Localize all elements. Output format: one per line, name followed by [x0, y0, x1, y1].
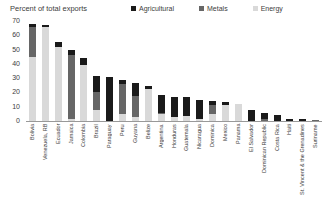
bar-column — [90, 21, 103, 121]
bar-suriname — [312, 120, 319, 121]
legend-swatch-metals — [199, 6, 204, 11]
bar-segment-agricultural — [106, 77, 113, 121]
y-axis-tick-label: 0 — [16, 117, 20, 125]
x-axis-label: Guatemala — [183, 124, 190, 208]
bar-belize — [145, 86, 152, 121]
x-axis-label: Argentina — [158, 124, 165, 208]
bar-column — [103, 21, 116, 121]
y-axis-tick-label: 40 — [12, 60, 20, 68]
bar-el-salvador — [248, 110, 255, 121]
x-axis-label-column: Paraguay — [103, 124, 116, 210]
x-axis-label-column: St. Vincent & the Grenadines — [296, 124, 309, 210]
bar-column — [309, 21, 322, 121]
bar-segment-energy — [55, 47, 62, 121]
bar-guatemala — [183, 97, 190, 121]
bar-column — [232, 21, 245, 121]
x-axis-label-column: Haiti — [284, 124, 297, 210]
bar-column — [129, 21, 142, 121]
bar-segment-energy — [68, 119, 75, 121]
chart-title: Percent of total exports — [10, 4, 87, 13]
legend-label: Agricultural — [139, 5, 174, 12]
bar-column — [168, 21, 181, 121]
x-axis-label-column: Bolivia — [26, 124, 39, 210]
bar-segment-energy — [222, 105, 229, 121]
bar-colombia — [80, 58, 87, 121]
bar-segment-metals — [119, 84, 126, 114]
bar-venezuela-rb — [42, 25, 49, 121]
bar-segment-agricultural — [80, 58, 87, 65]
bar-dominican-republic — [261, 113, 268, 121]
bar-segment-metals — [261, 119, 268, 121]
x-axis-label: Haiti — [286, 124, 293, 208]
y-axis-tick-label: 20 — [12, 88, 20, 96]
bar-segment-energy — [171, 117, 178, 121]
x-axis-label: Dominica — [209, 124, 216, 208]
bar-segment-energy — [119, 114, 126, 121]
y-axis-tick-label: 60 — [12, 31, 20, 39]
x-axis-label: Jamaica — [68, 124, 75, 208]
bar-segment-energy — [196, 119, 203, 121]
x-axis-label: Belize — [145, 124, 152, 208]
x-axis-label-column: Mexico — [219, 124, 232, 210]
x-axis-label: St. Vincent & the Grenadines — [299, 124, 306, 208]
x-axis-label: Nicaragua — [196, 124, 203, 208]
bar-segment-agricultural — [196, 100, 203, 119]
bar-peru — [119, 80, 126, 121]
x-axis-label-column: Dominican Republic — [258, 124, 271, 210]
bar-paraguay — [106, 77, 113, 121]
x-axis-labels: BoliviaVenezuela, RBEcuadorJamaicaColomb… — [26, 124, 322, 210]
x-axis-label-column: Nicaragua — [193, 124, 206, 210]
legend-item-energy: Energy — [253, 5, 283, 12]
bar-column — [52, 21, 65, 121]
bar-bolivia — [29, 24, 36, 121]
bar-segment-metals — [132, 96, 139, 117]
bar-column — [258, 21, 271, 121]
bar-segment-agricultural — [286, 119, 293, 121]
bar-segment-metals — [68, 55, 75, 119]
x-axis-label-column: Costa Rica — [271, 124, 284, 210]
bar-segment-energy — [80, 65, 87, 121]
bar-nicaragua — [196, 100, 203, 121]
x-axis-label: Brazil — [93, 124, 100, 208]
x-axis-label-column: Honduras — [168, 124, 181, 210]
y-axis-tick-label: 30 — [12, 74, 20, 82]
bar-ecuador — [55, 42, 62, 121]
bar-segment-agricultural — [158, 95, 165, 114]
x-axis-label-column: Colombia — [78, 124, 91, 210]
x-axis-label: Venezuela, RB — [42, 124, 49, 208]
x-axis-label: Guyana — [132, 124, 139, 208]
x-axis-label: El Salvador — [248, 124, 255, 208]
bar-segment-energy — [158, 114, 165, 121]
legend-label: Metals — [207, 5, 228, 12]
legend-label: Energy — [261, 5, 283, 12]
legend-item-metals: Metals — [199, 5, 228, 12]
x-axis-label-column: Argentina — [155, 124, 168, 210]
x-axis-label: Dominican Republic — [261, 124, 268, 208]
bar-brazil — [93, 76, 100, 121]
bar-segment-energy — [235, 104, 242, 121]
x-axis-label: Colombia — [80, 124, 87, 208]
bar-dominica — [209, 101, 216, 121]
bar-column — [245, 21, 258, 121]
x-axis-label-column: Panama — [232, 124, 245, 210]
legend-item-agricultural: Agricultural — [131, 5, 174, 12]
x-axis-label-column: Venezuela, RB — [39, 124, 52, 210]
bar-segment-agricultural — [93, 76, 100, 92]
bar-column — [116, 21, 129, 121]
legend-swatch-energy — [253, 6, 258, 11]
bar-segment-energy — [132, 117, 139, 121]
bar-jamaica — [68, 50, 75, 121]
plot-area — [26, 21, 322, 122]
x-axis-label: Paraguay — [106, 124, 113, 208]
bar-segment-energy — [29, 57, 36, 121]
x-axis-label-column: Belize — [142, 124, 155, 210]
bar-honduras — [171, 97, 178, 121]
bar-column — [296, 21, 309, 121]
bar-segment-metals — [93, 92, 100, 110]
bar-column — [284, 21, 297, 121]
bar-segment-energy — [93, 110, 100, 121]
bar-column — [142, 21, 155, 121]
bar-column — [78, 21, 91, 121]
bar-argentina — [158, 95, 165, 121]
bar-mexico — [222, 102, 229, 121]
